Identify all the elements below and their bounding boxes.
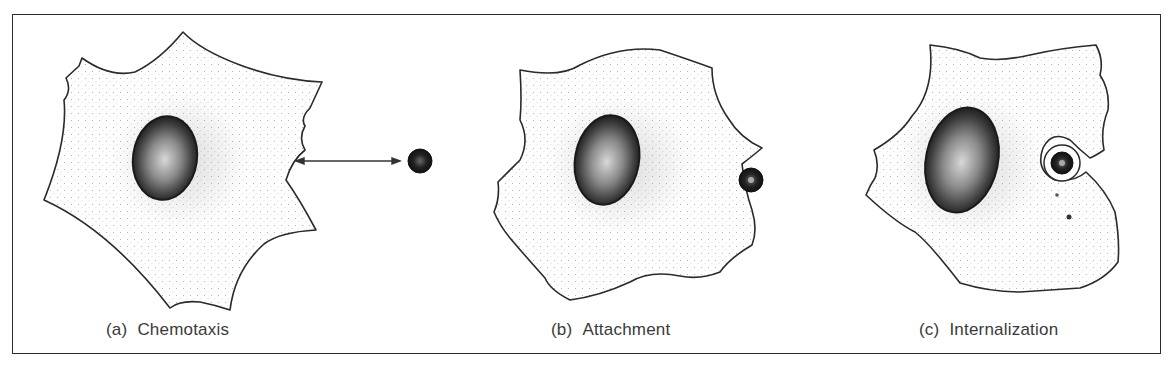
phagocytosis-diagram [0,0,1175,367]
caption-b-label: Attachment [582,320,670,339]
caption-a-label: Chemotaxis [137,320,229,339]
caption-b: (b)Attachment [551,320,670,340]
caption-c-tag: (c) [919,320,939,339]
panel-a-chemotaxis [44,32,432,310]
bacterium-a [408,149,432,173]
caption-c-label: Internalization [949,320,1058,339]
caption-a: (a)Chemotaxis [106,320,229,340]
caption-b-tag: (b) [551,320,572,339]
double-arrow [296,158,400,164]
panel-b-attachment [494,49,763,300]
caption-c: (c)Internalization [919,320,1058,340]
caption-a-tag: (a) [106,320,127,339]
panel-c-internalization [866,45,1119,292]
